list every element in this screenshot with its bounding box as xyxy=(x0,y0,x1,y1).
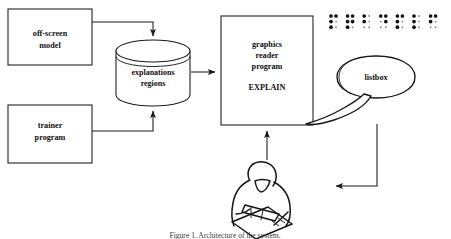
braille-dot-raised xyxy=(329,20,333,24)
braille-dot-raised xyxy=(429,14,433,18)
store-label-line1: explanations xyxy=(131,68,174,77)
listbox-bubble-label: listbox xyxy=(364,73,388,82)
braille-dot-raised xyxy=(396,25,400,29)
braille-dot-raised xyxy=(396,20,400,24)
braille-dot-raised xyxy=(434,14,438,18)
trainer-program-label-line1: trainer xyxy=(38,121,63,130)
node-trainer-program[interactable]: trainer program xyxy=(8,105,92,163)
braille-output-row xyxy=(329,14,437,29)
braille-cell xyxy=(346,14,355,29)
braille-dot-raised xyxy=(351,14,355,18)
braille-dot-raised xyxy=(384,20,388,24)
braille-dot-flat xyxy=(418,26,420,28)
braille-dot-raised xyxy=(346,14,350,18)
braille-cell xyxy=(412,14,420,29)
off-screen-model-label-line1: off-screen xyxy=(33,29,68,38)
braille-dot-raised xyxy=(329,25,333,29)
braille-dot-flat xyxy=(430,26,432,28)
braille-dot-flat xyxy=(335,21,337,23)
braille-dot-raised xyxy=(396,14,400,18)
braille-dot-flat xyxy=(418,21,420,23)
reader-label-line3: program xyxy=(252,62,283,71)
edge-model-to-store xyxy=(92,22,153,36)
braille-dot-raised xyxy=(412,25,416,29)
braille-dot-raised xyxy=(329,14,333,18)
braille-dot-flat xyxy=(368,15,370,17)
braille-dot-flat xyxy=(363,26,365,28)
braille-cell xyxy=(429,14,438,28)
node-graphics-reader-program[interactable]: graphics reader program EXPLAIN xyxy=(221,16,313,125)
node-off-screen-model[interactable]: off-screen model xyxy=(8,9,92,65)
store-label-line2: regions xyxy=(141,79,166,88)
edge-trainer-to-store xyxy=(92,111,153,131)
braille-cell xyxy=(362,14,370,28)
braille-dot-raised xyxy=(401,14,405,18)
braille-dot-raised xyxy=(346,20,350,24)
reader-explain-label: EXPLAIN xyxy=(249,83,286,92)
braille-dot-flat xyxy=(380,21,382,23)
braille-dot-raised xyxy=(379,14,383,18)
braille-dot-flat xyxy=(435,26,437,28)
braille-cell xyxy=(329,14,338,29)
braille-dot-flat xyxy=(435,21,437,23)
braille-dot-raised xyxy=(362,14,366,18)
braille-dot-flat xyxy=(401,21,403,23)
reader-label-line1: graphics xyxy=(252,40,282,49)
braille-dot-flat xyxy=(418,15,420,17)
tactile-reader-person xyxy=(232,162,292,239)
braille-dot-raised xyxy=(362,20,366,24)
braille-dot-raised xyxy=(351,20,355,24)
braille-dot-flat xyxy=(352,26,354,28)
edge-bubble-to-user xyxy=(336,124,377,186)
braille-dot-raised xyxy=(429,20,433,24)
braille-dot-raised xyxy=(412,20,416,24)
off-screen-model-label-line2: model xyxy=(39,41,61,50)
braille-dot-raised xyxy=(412,14,416,18)
braille-dot-raised xyxy=(384,14,388,18)
braille-dot-flat xyxy=(385,26,387,28)
listbox-speech-bubble[interactable]: listbox xyxy=(306,56,415,125)
figure-caption: Figure 1. Architecture of the system. xyxy=(169,231,280,239)
diagram-canvas: off-screen model trainer program explana… xyxy=(0,0,451,239)
braille-dot-raised xyxy=(334,14,338,18)
braille-dot-flat xyxy=(368,21,370,23)
braille-dot-raised xyxy=(346,25,350,29)
diagram-svg: off-screen model trainer program explana… xyxy=(0,0,451,239)
braille-dot-flat xyxy=(401,26,403,28)
braille-cell xyxy=(379,14,388,28)
reader-label-line2: reader xyxy=(255,51,278,60)
trainer-program-label-line2: program xyxy=(35,133,66,142)
braille-cell xyxy=(396,14,405,29)
node-explanations-regions-store[interactable]: explanations regions xyxy=(116,40,190,106)
braille-dot-flat xyxy=(368,26,370,28)
braille-dot-flat xyxy=(335,26,337,28)
braille-dot-flat xyxy=(380,26,382,28)
